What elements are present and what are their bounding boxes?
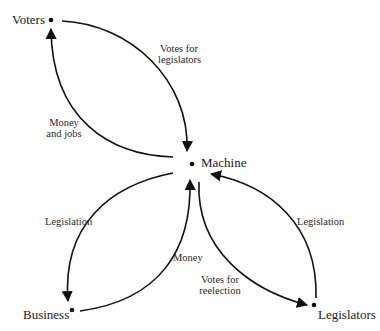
label-money-and-jobs-1: Money — [49, 117, 79, 128]
node-business: Business — [23, 307, 74, 322]
label-money-and-jobs-2: and jobs — [46, 128, 81, 139]
business-dot — [70, 308, 75, 313]
node-legislators: Legislators — [312, 303, 376, 322]
machine-label: Machine — [201, 155, 247, 170]
legislators-label: Legislators — [318, 307, 376, 322]
label-money: Money — [173, 252, 203, 263]
legislators-dot — [312, 303, 317, 308]
political-machine-diagram: Voters Machine Business Legislators Vote… — [0, 0, 380, 331]
label-votes-for-legislators-2: legislators — [158, 54, 201, 65]
node-machine: Machine — [190, 155, 247, 170]
machine-dot — [190, 162, 195, 167]
label-legislation-to-business: Legislation — [45, 216, 93, 227]
edge-legislation-to-business — [67, 173, 173, 301]
label-votes-for-reelection-1: Votes for — [201, 274, 240, 285]
label-legislation-from-legislators: Legislation — [297, 216, 345, 227]
label-votes-for-reelection-2: reelection — [199, 285, 241, 296]
business-label: Business — [23, 307, 69, 322]
voters-label: Voters — [12, 12, 45, 27]
node-voters: Voters — [12, 12, 53, 27]
edge-money — [80, 180, 190, 311]
voters-dot — [49, 18, 54, 23]
label-votes-for-legislators-1: Votes for — [160, 43, 199, 54]
